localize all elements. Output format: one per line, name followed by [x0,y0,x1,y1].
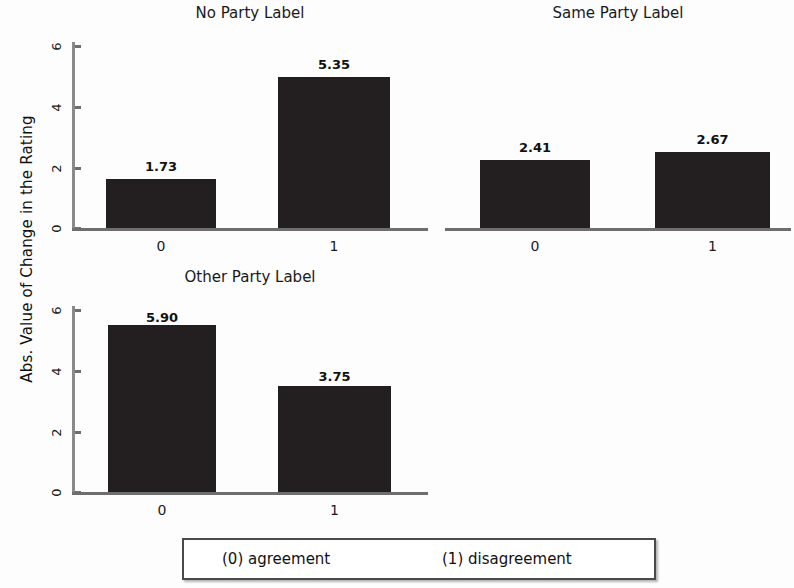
panel-no-party-label: No Party Label 6 4 2 0 1.73 5.35 0 1 [72,4,428,254]
bar [278,386,391,492]
y-tick-label: 0 [49,219,64,239]
plot-area [72,306,428,492]
bar-value-label: 5.35 [278,57,390,72]
bar [106,179,216,228]
bar-value-label: 3.75 [278,369,391,384]
x-tick-label: 1 [278,238,390,254]
bar-value-label: 5.90 [108,310,216,325]
y-tick-label: 2 [49,159,64,179]
panel-other-party-label: Other Party Label 6 4 2 0 5.90 3.75 0 1 [72,268,428,518]
x-tick-label: 1 [278,502,391,518]
panel-title: Same Party Label [445,4,791,22]
y-tick-label: 2 [49,423,64,443]
legend-content: (0) agreement (1) disagreement [184,540,654,578]
y-tick-label: 6 [49,37,64,57]
bar-value-label: 2.67 [655,132,770,147]
x-axis-line [445,228,791,231]
chart-figure: Abs. Value of Change in the Rating No Pa… [0,0,794,588]
panel-title: No Party Label [72,4,428,22]
legend-item-disagreement: (1) disagreement [442,550,572,568]
y-tick-label: 6 [49,301,64,321]
bar [278,77,390,228]
bar-value-label: 2.41 [480,140,590,155]
bar-value-label: 1.73 [106,159,216,174]
y-tick-label: 4 [49,98,64,118]
legend-box: (0) agreement (1) disagreement [182,538,656,580]
bar [108,325,216,492]
y-tick-label: 0 [49,483,64,503]
y-tick-label: 4 [49,362,64,382]
panel-same-party-label: Same Party Label 2.41 2.67 0 1 [445,4,791,254]
x-axis-line [72,228,428,231]
legend-item-agreement: (0) agreement [222,550,330,568]
x-tick-label: 0 [108,502,216,518]
bar [480,160,590,228]
bar [655,152,770,228]
x-tick-label: 0 [106,238,216,254]
x-tick-label: 1 [655,238,770,254]
x-tick-label: 0 [480,238,590,254]
x-axis-line [72,492,428,495]
y-axis-label: Abs. Value of Change in the Rating [18,84,36,414]
panel-title: Other Party Label [72,268,428,286]
